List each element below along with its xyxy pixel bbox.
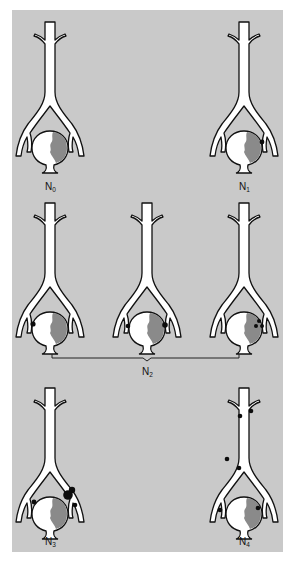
- lymph-node-n2c-2: [260, 324, 264, 328]
- lymph-node-n2a-0: [30, 321, 35, 326]
- lymph-node-n2c-1: [254, 324, 258, 328]
- lymph-node-n4-5: [256, 506, 261, 511]
- lymph-node-n1-0: [260, 140, 265, 145]
- lymph-node-n4-0: [238, 414, 243, 419]
- lymph-node-n3-2: [69, 487, 75, 493]
- lymph-node-n4-1: [249, 409, 254, 414]
- lymph-node-n4-3: [237, 466, 242, 471]
- lymph-node-n2b-0: [126, 324, 131, 329]
- lymph-node-n2b-1: [162, 322, 168, 328]
- lymph-node-n3-0: [32, 500, 37, 505]
- lymph-node-n4-2: [225, 457, 230, 462]
- lymph-node-n3-3: [73, 503, 78, 508]
- lymph-node-n2c-0: [257, 319, 261, 323]
- staging-diagram: N0 N1 N2 N3 N4: [0, 0, 294, 563]
- lymph-node-n4-4: [218, 508, 223, 513]
